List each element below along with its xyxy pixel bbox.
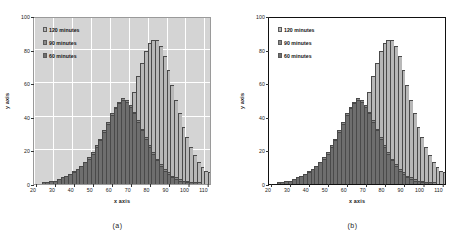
y-axis-tick-mark bbox=[266, 185, 269, 186]
legend-swatch-90-icon bbox=[278, 40, 282, 45]
y-axis-tick-label: 100 bbox=[256, 14, 265, 20]
y-axis-tick-mark bbox=[266, 51, 269, 52]
legend-label-60: 60 minutes bbox=[284, 53, 312, 59]
legend-label-90: 90 minutes bbox=[49, 40, 77, 46]
y-axis-tick-label: 80 bbox=[24, 48, 30, 54]
legend-item-120: 120 minutes bbox=[43, 25, 80, 34]
y-axis-tick-mark bbox=[266, 84, 269, 85]
legend-swatch-60-icon bbox=[43, 53, 47, 58]
x-axis-tick-label: 50 bbox=[87, 187, 93, 193]
histogram-bar bbox=[197, 182, 201, 184]
panel-caption-a: (a) bbox=[0, 222, 235, 229]
y-axis-tick-label: 20 bbox=[24, 148, 30, 154]
y-axis-tick-label: 60 bbox=[259, 81, 265, 87]
x-axis-tick-label: 70 bbox=[360, 187, 366, 193]
y-axis-tick-mark bbox=[266, 17, 269, 18]
x-axis-tick-mark bbox=[328, 184, 329, 187]
legend-item-90: 90 minutes bbox=[278, 38, 315, 47]
histogram-bar bbox=[428, 182, 432, 184]
x-axis-tick-mark bbox=[131, 184, 132, 187]
y-axis-tick-mark bbox=[266, 118, 269, 119]
x-axis-tick-mark bbox=[189, 184, 190, 187]
x-axis-tick-mark bbox=[309, 184, 310, 187]
histogram-bar bbox=[443, 172, 445, 184]
legend-a: 120 minutes 90 minutes 60 minutes bbox=[43, 25, 80, 64]
x-axis-tick-label: 100 bbox=[415, 187, 424, 193]
x-axis-label-b: x axis bbox=[268, 198, 446, 204]
y-axis-tick-mark bbox=[266, 151, 269, 152]
y-axis-tick-mark bbox=[31, 151, 34, 152]
legend-item-60: 60 minutes bbox=[43, 51, 80, 60]
legend-label-60: 60 minutes bbox=[49, 53, 77, 59]
x-axis-tick-mark bbox=[290, 184, 291, 187]
x-axis-tick-label: 100 bbox=[180, 187, 189, 193]
y-axis-label-b: y axis bbox=[239, 93, 245, 109]
x-axis-tick-mark bbox=[93, 184, 94, 187]
x-axis-tick-mark bbox=[271, 184, 272, 187]
legend-swatch-120-icon bbox=[278, 27, 282, 32]
y-axis-tick-label: 20 bbox=[259, 148, 265, 154]
legend-item-120: 120 minutes bbox=[278, 25, 315, 34]
legend-swatch-60-icon bbox=[278, 53, 282, 58]
panel-b: 120 minutes 90 minutes 60 minutes 020406… bbox=[235, 0, 470, 248]
plot-area-b: 120 minutes 90 minutes 60 minutes bbox=[268, 17, 446, 185]
legend-label-90: 90 minutes bbox=[284, 40, 312, 46]
x-axis-tick-label: 30 bbox=[284, 187, 290, 193]
legend-label-120: 120 minutes bbox=[49, 27, 80, 33]
x-axis-tick-label: 70 bbox=[125, 187, 131, 193]
x-axis-tick-label: 40 bbox=[68, 187, 74, 193]
y-axis-tick-label: 40 bbox=[24, 115, 30, 121]
x-axis-tick-mark bbox=[443, 184, 444, 187]
x-axis-tick-label: 110 bbox=[199, 187, 208, 193]
y-axis-tick-label: 60 bbox=[24, 81, 30, 87]
x-axis-tick-mark bbox=[112, 184, 113, 187]
x-axis-tick-label: 60 bbox=[341, 187, 347, 193]
x-axis-tick-mark bbox=[169, 184, 170, 187]
x-axis-tick-label: 30 bbox=[49, 187, 55, 193]
y-axis-label-a: y axis bbox=[4, 93, 10, 109]
y-axis-tick-label: 80 bbox=[259, 48, 265, 54]
x-axis-tick-mark bbox=[55, 184, 56, 187]
x-axis-tick-mark bbox=[404, 184, 405, 187]
legend-b: 120 minutes 90 minutes 60 minutes bbox=[278, 25, 315, 64]
y-axis-tick-mark bbox=[31, 17, 34, 18]
histogram-bar bbox=[208, 172, 210, 184]
x-axis-tick-mark bbox=[366, 184, 367, 187]
figure-container: 120 minutes 90 minutes 60 minutes 020406… bbox=[0, 0, 470, 248]
x-axis-tick-label: 80 bbox=[379, 187, 385, 193]
x-axis-tick-mark bbox=[150, 184, 151, 187]
panel-a: 120 minutes 90 minutes 60 minutes 020406… bbox=[0, 0, 235, 248]
x-axis-label-a: x axis bbox=[33, 198, 211, 204]
x-axis-tick-mark bbox=[36, 184, 37, 187]
x-axis-tick-mark bbox=[347, 184, 348, 187]
x-axis-tick-mark bbox=[74, 184, 75, 187]
histogram-bar bbox=[193, 182, 197, 184]
legend-swatch-120-icon bbox=[43, 27, 47, 32]
legend-label-120: 120 minutes bbox=[284, 27, 315, 33]
legend-swatch-90-icon bbox=[43, 40, 47, 45]
x-axis-tick-label: 110 bbox=[434, 187, 443, 193]
legend-item-90: 90 minutes bbox=[43, 38, 80, 47]
x-axis-tick-label: 60 bbox=[106, 187, 112, 193]
y-axis-tick-mark bbox=[31, 185, 34, 186]
x-axis-tick-mark bbox=[385, 184, 386, 187]
histogram-bar bbox=[432, 182, 436, 184]
x-axis-tick-label: 90 bbox=[398, 187, 404, 193]
y-axis-tick-mark bbox=[31, 118, 34, 119]
legend-item-60: 60 minutes bbox=[278, 51, 315, 60]
x-axis-tick-label: 50 bbox=[322, 187, 328, 193]
x-axis-tick-label: 80 bbox=[144, 187, 150, 193]
x-axis-tick-mark bbox=[424, 184, 425, 187]
panel-caption-b: (b) bbox=[235, 222, 470, 229]
y-axis-tick-label: 100 bbox=[21, 14, 30, 20]
y-axis-tick-mark bbox=[31, 84, 34, 85]
y-axis-tick-mark bbox=[31, 51, 34, 52]
x-axis-tick-label: 20 bbox=[30, 187, 36, 193]
y-axis-tick-label: 40 bbox=[259, 115, 265, 121]
plot-area-a: 120 minutes 90 minutes 60 minutes bbox=[33, 17, 211, 185]
x-axis-tick-label: 90 bbox=[163, 187, 169, 193]
x-axis-tick-label: 20 bbox=[265, 187, 271, 193]
x-axis-tick-label: 40 bbox=[303, 187, 309, 193]
x-axis-tick-mark bbox=[208, 184, 209, 187]
